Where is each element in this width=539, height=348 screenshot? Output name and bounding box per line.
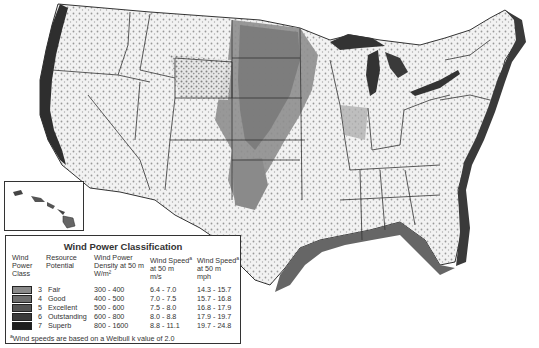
swatch-class-4 [12, 295, 32, 303]
legend-row-class-7: 7 Superb 800 - 1600 8.8 - 11.1 19.7 - 24… [6, 322, 240, 330]
hawaii-inset [4, 181, 84, 231]
wind-power-legend: Wind Power Classification Wind Power Cla… [5, 235, 241, 344]
wyoming-wind-region [170, 55, 232, 100]
swatch-class-7 [12, 322, 32, 330]
header-resource-potential: Resource Potential [46, 254, 77, 270]
swatch-class-6 [12, 313, 32, 321]
header-wind-power-class: Wind Power Class [12, 254, 32, 278]
legend-row-class-6: 6 Outstanding 600 - 800 8.0 - 8.8 17.9 -… [6, 313, 240, 321]
hawaii-islands [5, 182, 83, 230]
legend-footnote: aWind speeds are based on a Weibull k va… [10, 333, 174, 343]
legend-title: Wind Power Classification [6, 241, 240, 252]
legend-row-class-5: 5 Excellent 500 - 600 7.5 - 8.0 16.8 - 1… [6, 304, 240, 312]
header-wind-speed-ms: Wind Speeda at 50 m m/s [150, 254, 192, 281]
swatch-class-3 [12, 286, 32, 294]
legend-row-class-3: 3 Fair 300 - 400 6.4 - 7.0 14.3 - 15.7 [6, 286, 240, 294]
swatch-class-5 [12, 304, 32, 312]
header-wind-speed-mph: Wind Speeda at 50 m mph [197, 254, 239, 281]
legend-row-class-4: 4 Good 400 - 500 7.0 - 7.5 15.7 - 16.8 [6, 295, 240, 303]
header-wind-power-density: Wind Power Density at 50 m W/m² [94, 254, 144, 278]
